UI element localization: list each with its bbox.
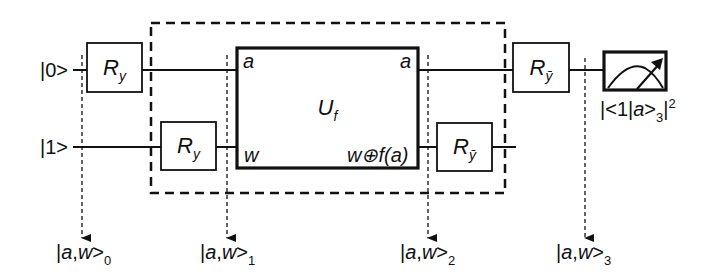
rybar-gate-bottom-label: Rȳ [437,136,492,158]
uf-gate-label: Uf [237,97,418,119]
meter-icon [604,52,666,90]
uf-in-bottom: w [244,145,258,165]
ry-gate-bottom-label: Ry [161,135,216,157]
rybar-gate-top-label: Rȳ [513,57,569,79]
state-label-3: |a,w>3 [556,242,611,262]
input-label-q1: |1> [40,137,68,157]
state-label-1: |a,w>1 [200,242,255,262]
uf-in-top: a [243,51,254,71]
measurement-label: |<1|a>3|2 [600,99,676,119]
state-label-2: |a,w>2 [400,242,455,262]
uf-out-top: a [400,51,411,71]
circuit-canvas [0,0,709,277]
uf-out-bottom: w⊕f(a) [347,145,408,165]
input-label-q0: |0> [40,60,68,80]
state-label-0: |a,w>0 [56,242,111,262]
ry-gate-top-label: Ry [87,57,142,79]
